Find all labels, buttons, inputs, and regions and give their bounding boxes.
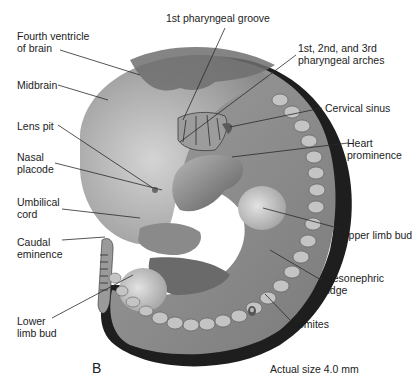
label-cervical-sinus: Cervical sinus <box>325 102 390 114</box>
upper-limb-bud-shape <box>238 186 286 230</box>
label-midbrain: Midbrain <box>17 79 57 91</box>
embryo-diagram: Fourth ventricle of brain Midbrain Lens … <box>0 0 419 382</box>
panel-letter: B <box>92 360 101 376</box>
label-umbilical-cord: Umbilical cord <box>17 196 60 220</box>
label-caudal-eminence: Caudal eminence <box>17 236 63 260</box>
embryo-size-icon <box>248 306 256 316</box>
size-note-text: Actual size 4.0 mm <box>270 363 359 375</box>
label-lens-pit: Lens pit <box>17 120 54 132</box>
label-mesonephric-ridge: Mesonephric ridge <box>324 272 384 296</box>
umbilical-cord-shape <box>138 223 201 255</box>
size-note: Actual size 4.0 mm <box>270 363 359 375</box>
label-pharyngeal-arches: 1st, 2nd, and 3rd pharyngeal arches <box>298 42 384 66</box>
label-fourth-ventricle: Fourth ventricle of brain <box>17 30 89 54</box>
label-lower-limb-bud: Lower limb bud <box>17 315 57 339</box>
label-nasal-placode: Nasal placode <box>17 151 54 175</box>
label-upper-limb-bud: Upper limb bud <box>341 229 412 241</box>
label-heart-prominence: Heart prominence <box>347 137 402 161</box>
label-somites: Somites <box>291 318 329 330</box>
label-first-pharyngeal-groove: 1st pharyngeal groove <box>166 12 270 24</box>
